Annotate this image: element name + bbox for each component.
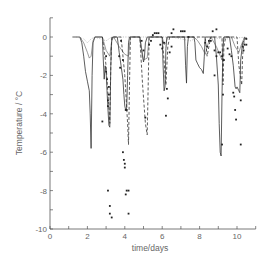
x-tick-label: 2: [85, 232, 90, 241]
observation-point: [245, 44, 247, 46]
observation-point: [141, 40, 143, 42]
observation-point: [163, 42, 165, 44]
observation-point: [245, 38, 247, 40]
observation-point: [118, 55, 120, 57]
y-tick-label: -6: [40, 148, 48, 157]
observation-point: [216, 28, 218, 30]
y-axis-label: Temperature / °C: [14, 91, 24, 155]
observation-point: [216, 55, 218, 57]
x-tick-label: 8: [197, 232, 202, 241]
observation-point: [128, 190, 130, 192]
observation-point: [214, 75, 216, 77]
observation-point: [119, 67, 121, 69]
observation-point: [107, 99, 109, 101]
observation-point: [169, 51, 171, 53]
observation-point: [108, 86, 110, 88]
series-line: [72, 37, 246, 156]
observation-point: [122, 151, 124, 153]
observation-point: [159, 44, 161, 46]
observation-point: [223, 59, 225, 61]
y-tick-label: 0: [43, 33, 48, 42]
observation-point: [182, 30, 184, 32]
observation-point: [126, 190, 128, 192]
observation-point: [187, 36, 189, 38]
observation-point: [156, 32, 158, 34]
observation-point: [111, 217, 113, 219]
observation-point: [240, 144, 242, 146]
observation-point: [230, 55, 232, 57]
y-tick-label: -10: [35, 225, 47, 234]
observation-point: [235, 119, 237, 121]
observation-point: [105, 71, 107, 73]
x-tick-label: 4: [123, 232, 128, 241]
x-axis-label: time/days: [132, 243, 168, 253]
observation-point: [120, 40, 122, 42]
observation-point: [212, 30, 214, 32]
observation-point: [126, 109, 128, 111]
observation-point: [221, 55, 223, 57]
observation-point: [240, 99, 242, 101]
observation-point: [242, 46, 244, 48]
observation-point: [221, 144, 223, 146]
observation-point: [214, 50, 216, 52]
tick-labels: 02468100-2-4-6-8-10: [35, 33, 242, 241]
observation-point: [180, 30, 182, 32]
series-line: [76, 37, 246, 43]
observation-point: [144, 117, 146, 119]
observation-point: [148, 44, 150, 46]
observation-point: [222, 94, 224, 96]
observation-point: [124, 167, 126, 169]
observation-point: [123, 159, 125, 161]
observation-point: [128, 213, 130, 215]
x-tick-label: 0: [48, 232, 53, 241]
observation-point: [227, 48, 229, 50]
observation-point: [143, 50, 145, 52]
observation-point: [107, 105, 109, 107]
observation-point: [210, 40, 212, 42]
temperature-chart: 02468100-2-4-6-8-10 time/days Temperatur…: [0, 0, 270, 262]
observation-point: [171, 46, 173, 48]
observation-point: [208, 40, 210, 42]
axes: [50, 18, 256, 229]
observation-point: [232, 92, 234, 94]
observation-point: [234, 109, 236, 111]
observation-point: [171, 32, 173, 34]
observation-point: [109, 205, 111, 207]
observation-point: [150, 40, 152, 42]
observation-point: [165, 115, 167, 117]
observation-point: [109, 213, 111, 215]
x-tick-label: 10: [233, 232, 242, 241]
observation-point: [166, 88, 168, 90]
observation-point: [167, 98, 169, 100]
y-tick-label: -2: [40, 71, 48, 80]
observation-point: [243, 50, 245, 52]
observation-point: [106, 78, 108, 80]
observation-point: [107, 190, 109, 192]
observation-point: [229, 53, 231, 55]
observation-point: [108, 94, 110, 96]
observation-point: [101, 121, 103, 123]
plot-lines: [72, 37, 246, 156]
observation-point: [244, 44, 246, 46]
observation-point: [105, 55, 107, 57]
observation-point: [152, 34, 154, 36]
observation-point: [122, 59, 124, 61]
observation-point: [233, 96, 235, 98]
observation-point: [125, 194, 127, 196]
observation-point: [219, 51, 221, 53]
y-tick-label: -8: [40, 187, 48, 196]
observation-point: [184, 30, 186, 32]
x-tick-label: 6: [160, 232, 165, 241]
observation-point: [154, 32, 156, 34]
observation-point: [217, 51, 219, 53]
observation-point: [206, 46, 208, 48]
observation-point: [124, 163, 126, 165]
observation-point: [161, 48, 163, 50]
y-tick-label: -4: [40, 110, 48, 119]
observation-point: [173, 28, 175, 30]
observation-point: [158, 32, 160, 34]
observation-point: [204, 42, 206, 44]
